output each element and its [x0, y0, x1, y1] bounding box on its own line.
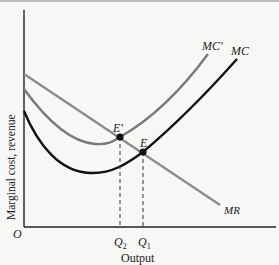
mc-label: MC — [230, 44, 250, 58]
e-prime-label: E' — [112, 121, 123, 135]
q2-tick-label: Q2 — [114, 235, 127, 251]
q2-base: Q — [114, 235, 123, 249]
q1-base: Q — [138, 235, 147, 249]
q2-subscript: 2 — [123, 242, 127, 251]
mr-label: MR — [223, 204, 240, 216]
mc-curve — [24, 59, 237, 173]
origin-label: O — [13, 227, 22, 241]
q1-subscript: 1 — [147, 242, 151, 251]
e-label: E — [139, 136, 148, 150]
marginal-cost-revenue-chart: E' E MC' MC MR O Q2 Q1 Output Marginal c… — [0, 0, 279, 265]
x-axis-title: Output — [121, 251, 155, 265]
mc-prime-label: MC' — [201, 39, 223, 53]
q1-tick-label: Q1 — [138, 235, 151, 251]
y-axis-title: Marginal cost, revenue — [5, 115, 18, 221]
